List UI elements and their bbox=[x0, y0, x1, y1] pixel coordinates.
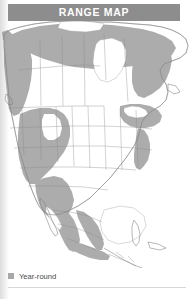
legend-item-label: Year-round bbox=[19, 272, 56, 281]
map-canvas bbox=[0, 10, 195, 268]
page-title: RANGE MAP bbox=[8, 4, 180, 21]
year-round-swatch-icon bbox=[8, 273, 14, 279]
range-map-card: RANGE MAP Year-round bbox=[0, 0, 195, 299]
map-legend: Year-round bbox=[8, 270, 56, 282]
bottom-divider bbox=[8, 287, 186, 288]
range-map-header: RANGE MAP bbox=[8, 4, 180, 21]
north-america-map bbox=[0, 10, 195, 268]
